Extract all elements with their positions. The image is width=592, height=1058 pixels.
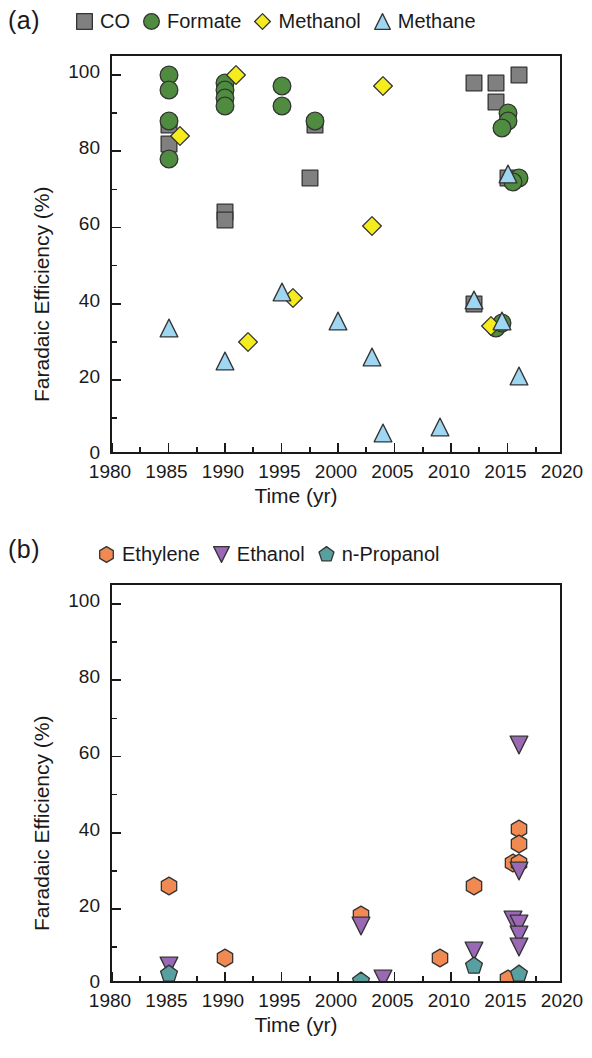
data-point-ethanol: [509, 736, 528, 755]
x-major-tick: [281, 972, 283, 981]
legend-label: Ethanol: [237, 543, 305, 566]
y-tick-label: 20: [52, 366, 100, 388]
x-major-tick: [224, 972, 226, 981]
data-point-co: [465, 74, 482, 91]
data-point-formate: [272, 77, 291, 96]
data-point-formate: [159, 149, 178, 168]
legend-label: Methane: [398, 10, 476, 33]
data-point-ethylene: [509, 835, 528, 854]
data-point-co: [301, 169, 318, 186]
data-point-ethanol: [374, 970, 393, 981]
data-point-n-propanol: [509, 964, 528, 981]
data-point-methane: [216, 351, 235, 370]
data-point-methanol: [226, 65, 246, 85]
x-minor-tick: [196, 976, 198, 981]
data-point-methane: [362, 347, 381, 366]
down-triangle-marker-icon: [213, 546, 230, 563]
y-major-tick: [112, 379, 121, 381]
data-point-n-propanol: [159, 964, 178, 981]
panel-a-label: (a): [8, 6, 40, 35]
y-tick-label: 80: [52, 666, 100, 688]
x-minor-tick: [535, 447, 537, 452]
data-point-methanol: [373, 76, 393, 96]
panel-a-x-axis-title: Time (yr): [0, 484, 592, 508]
y-tick-label: 20: [52, 895, 100, 917]
panel-b-plot-frame: [110, 583, 562, 983]
y-minor-tick: [112, 265, 117, 267]
data-point-methane: [464, 290, 483, 309]
data-point-ethylene: [159, 876, 178, 895]
data-point-formate: [272, 96, 291, 115]
panel-b-y-axis-title: Faradaic Efficiency (%): [30, 715, 54, 931]
y-minor-tick: [112, 718, 117, 720]
data-point-methane: [492, 311, 511, 330]
x-minor-tick: [252, 447, 254, 452]
x-major-tick: [450, 972, 452, 981]
y-major-tick: [112, 303, 121, 305]
data-point-n-propanol: [351, 972, 370, 981]
panel-b: (b) EthyleneEthanoln-Propanol Faradaic E…: [0, 529, 592, 1058]
y-minor-tick: [112, 870, 117, 872]
panel-b-plot-area: [112, 585, 560, 981]
legend-label: Formate: [167, 10, 241, 33]
data-point-co: [217, 211, 234, 228]
legend-label: n-Propanol: [342, 543, 440, 566]
y-major-tick: [112, 150, 121, 152]
x-minor-tick: [252, 976, 254, 981]
x-minor-tick: [139, 976, 141, 981]
x-major-tick: [507, 443, 509, 452]
x-minor-tick: [196, 447, 198, 452]
x-major-tick: [224, 443, 226, 452]
panel-a-y-axis-title: Faradaic Efficiency (%): [30, 186, 54, 402]
data-point-methane: [509, 367, 528, 386]
y-tick-label: 60: [52, 742, 100, 764]
data-point-methanol: [170, 126, 190, 146]
y-minor-tick: [112, 641, 117, 643]
x-minor-tick: [365, 447, 367, 452]
data-point-methane: [498, 165, 517, 184]
x-major-tick: [337, 443, 339, 452]
y-tick-label: 80: [52, 137, 100, 159]
x-minor-tick: [535, 976, 537, 981]
y-minor-tick: [112, 946, 117, 948]
y-tick-label: 100: [52, 590, 100, 612]
data-point-methane: [272, 283, 291, 302]
y-major-tick: [112, 832, 121, 834]
data-point-ethanol: [509, 937, 528, 956]
legend-label: CO: [100, 10, 130, 33]
x-major-tick: [450, 443, 452, 452]
legend-entry-co: CO: [76, 10, 130, 33]
y-tick-label: 60: [52, 213, 100, 235]
x-minor-tick: [309, 976, 311, 981]
x-major-tick: [337, 972, 339, 981]
data-point-co: [510, 67, 527, 84]
x-minor-tick: [478, 447, 480, 452]
x-minor-tick: [309, 447, 311, 452]
data-point-methane: [329, 311, 348, 330]
data-point-n-propanol: [464, 956, 483, 975]
panel-b-x-axis-title: Time (yr): [0, 1013, 592, 1037]
data-point-formate: [492, 119, 511, 138]
panel-a-legend: COFormateMethanolMethane: [76, 10, 476, 33]
legend-entry-methanol: Methanol: [254, 10, 360, 33]
data-point-ethanol: [351, 916, 370, 935]
legend-entry-n-propanol: n-Propanol: [318, 543, 440, 566]
data-point-ethanol: [509, 861, 528, 880]
legend-label: Ethylene: [122, 543, 200, 566]
x-minor-tick: [139, 447, 141, 452]
y-major-tick: [112, 908, 121, 910]
panel-a: (a) COFormateMethanolMethane Faradaic Ef…: [0, 0, 592, 529]
data-point-methane: [159, 319, 178, 338]
y-tick-label: 40: [52, 290, 100, 312]
circle-marker-icon: [143, 13, 160, 30]
y-minor-tick: [112, 189, 117, 191]
x-major-tick: [394, 972, 396, 981]
data-point-ethylene: [464, 876, 483, 895]
data-point-co: [488, 74, 505, 91]
data-point-formate: [159, 81, 178, 100]
panel-a-plot-area: [112, 56, 560, 452]
y-major-tick: [112, 227, 121, 229]
pentagon-marker-icon: [318, 546, 335, 563]
diamond-marker-icon: [254, 13, 271, 30]
y-major-tick: [112, 679, 121, 681]
